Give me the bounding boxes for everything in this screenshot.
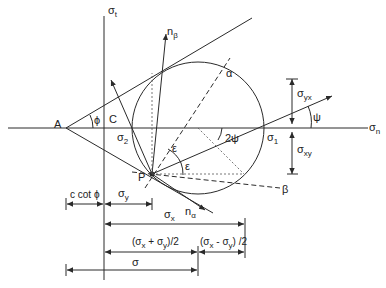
sigma-n-label: σn: [369, 121, 380, 136]
beta-label: β: [282, 183, 288, 195]
sigma-y-label: σy: [118, 187, 129, 202]
point-a-label: A: [54, 118, 62, 130]
c-cot-phi-label: c cot ϕ: [70, 189, 100, 200]
psi-label: ψ: [313, 111, 321, 123]
two-psi-label: 2ψ: [225, 132, 239, 144]
mohr-circle-diagram: σt σn A ϕ C σ2 σ1 P nβ nα α β 2ψ ε ε ψ σ…: [0, 0, 386, 288]
alpha-label: α: [226, 67, 233, 79]
n-alpha-label: nα: [185, 205, 196, 220]
sigma-xy-label: σxy: [297, 143, 312, 158]
upper-failure-envelope: [66, 18, 252, 128]
pole-to-upper-left-arrow: [111, 80, 152, 174]
half-difference-label: (σx - σy) /2: [200, 236, 247, 250]
epsilon-lower-arc: [181, 163, 183, 175]
epsilon-upper-label: ε: [172, 142, 177, 154]
point-c-label: C: [109, 113, 117, 125]
epsilon-lower-label: ε: [185, 160, 190, 172]
sigma-t-label: σt: [108, 4, 118, 19]
sigma-yx-label: σyx: [297, 87, 312, 102]
sigma-x-label: σx: [164, 208, 175, 223]
n-beta-label: nβ: [167, 25, 178, 40]
sigma2-label: σ2: [117, 131, 129, 146]
mean-stress-label: (σx + σy)/2: [132, 236, 179, 250]
sigma-label: σ: [132, 256, 139, 268]
principal-direction-arrow: [152, 96, 332, 174]
two-psi-arc: [218, 128, 222, 140]
psi-arc: [308, 106, 311, 128]
phi-label: ϕ: [94, 114, 100, 126]
phi-arc: [90, 115, 93, 128]
n-beta-arrow: [152, 34, 166, 174]
sigma1-label: σ1: [267, 131, 279, 146]
